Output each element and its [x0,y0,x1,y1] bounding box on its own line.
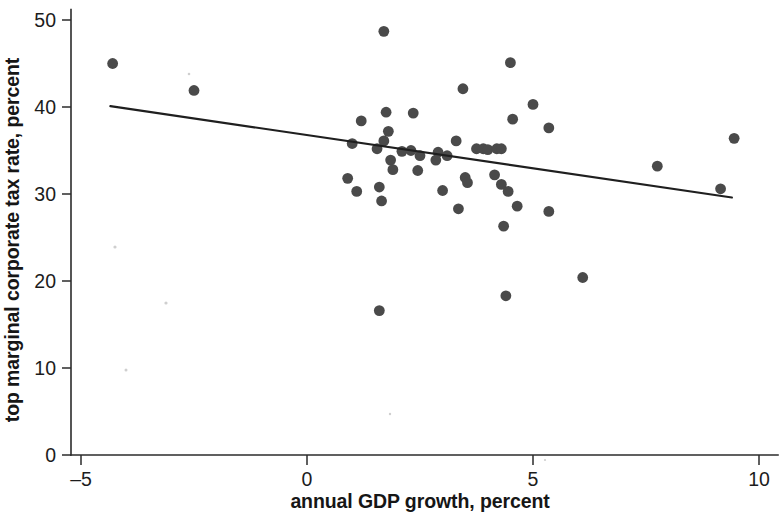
y-tick-label: 10 [34,357,56,379]
data-point [729,133,740,144]
data-point [507,114,518,125]
data-point [489,169,500,180]
chart-figure: 01020304050–50510 annual GDP growth, per… [0,0,781,519]
data-point [347,138,358,149]
data-point [189,85,200,96]
axes [71,10,778,455]
x-tick-label: 5 [528,468,539,490]
data-point [458,83,469,94]
data-point [378,26,389,37]
scatter-plot: 01020304050–50510 annual GDP growth, per… [0,0,781,519]
data-point [462,177,473,188]
paper-specks [113,73,546,461]
data-point [376,196,387,207]
y-tick-label: 30 [34,183,56,205]
y-tick-label: 0 [45,444,56,466]
data-point [342,173,353,184]
data-point [437,185,448,196]
x-tick-label: –5 [70,468,92,490]
data-point [715,183,726,194]
tick-marks [62,20,759,465]
data-point [387,164,398,175]
tick-labels: 01020304050–50510 [34,9,770,490]
data-point [412,165,423,176]
data-point [356,116,367,127]
data-point [498,221,509,232]
data-points [107,26,739,316]
data-point [577,272,588,283]
data-point [543,206,554,217]
scan-speck [188,73,191,76]
y-tick-label: 20 [34,270,56,292]
data-point [500,290,511,301]
x-axis-title: annual GDP growth, percent [290,490,550,512]
data-point [528,99,539,110]
data-point [107,58,118,69]
data-point [496,143,507,154]
data-point [374,182,385,193]
scan-speck [544,459,546,461]
data-point [430,155,441,166]
x-tick-label: 0 [302,468,313,490]
y-tick-label: 50 [34,9,56,31]
data-point [385,155,396,166]
data-point [652,161,663,172]
data-point [351,186,362,197]
y-tick-label: 40 [34,96,56,118]
scan-speck [125,369,128,372]
data-point [543,122,554,133]
data-point [503,186,514,197]
data-point [512,201,523,212]
scan-speck [164,301,167,304]
scan-speck [389,413,391,415]
data-point [381,107,392,118]
scan-speck [113,245,116,248]
x-tick-label: 10 [748,468,770,490]
data-point [453,203,464,214]
data-point [505,57,516,68]
data-point [374,305,385,316]
trend-line [110,106,732,197]
data-point [451,136,462,147]
regression-line [110,106,732,197]
data-point [383,126,394,137]
y-axis-title: top marginal corporate tax rate, percent [1,57,23,422]
data-point [408,108,419,119]
